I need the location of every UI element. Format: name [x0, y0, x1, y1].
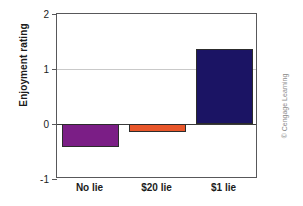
y-tick-label-2: 2: [43, 9, 49, 20]
y-tick-1: [52, 69, 57, 70]
bar-chart-figure: Enjoyment rating 210-1 No lie$20 lie$1 l…: [0, 0, 303, 206]
y-tick-label-1: 1: [43, 64, 49, 75]
x-label-20-lie: $20 lie: [141, 182, 172, 193]
x-label-no-lie: No lie: [76, 182, 103, 193]
bar-20-lie: [129, 124, 186, 132]
y-axis-title: Enjoyment rating: [18, 1, 34, 129]
y-tick-label--1: -1: [40, 174, 49, 185]
y-tick-2: [52, 14, 57, 15]
x-label-1-lie: $1 lie: [211, 182, 236, 193]
y-tick-label-0: 0: [43, 119, 49, 130]
plot-area: 210-1: [56, 13, 257, 178]
bar-1-lie: [196, 49, 253, 124]
x-axis-labels: No lie$20 lie$1 lie: [56, 182, 257, 198]
y-tick--1: [52, 179, 57, 180]
copyright-credit: © Cengage Learning: [281, 60, 293, 152]
bar-no-lie: [62, 124, 119, 147]
